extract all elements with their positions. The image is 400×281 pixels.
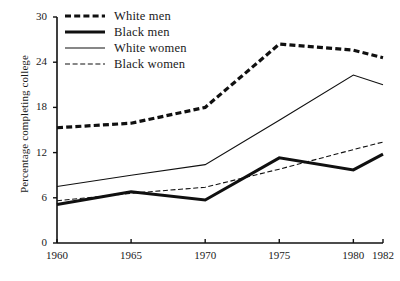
data-series	[57, 44, 383, 204]
series-line	[57, 75, 383, 186]
chart-figure: Percentage completing college 0612182430…	[0, 0, 400, 281]
axes	[53, 17, 383, 243]
series-line	[57, 44, 383, 128]
plot-area	[0, 0, 400, 281]
